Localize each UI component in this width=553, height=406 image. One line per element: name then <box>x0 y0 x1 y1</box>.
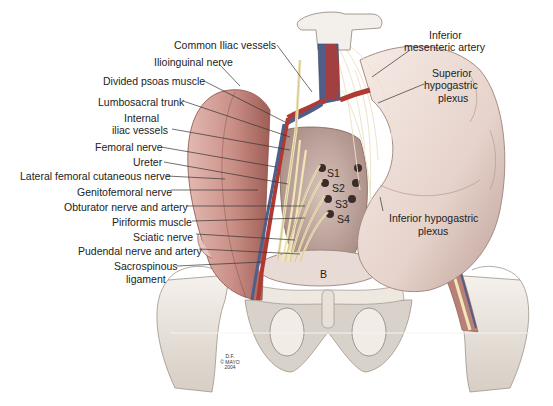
label-lumbosacral-trunk: Lumbosacral trunk <box>98 96 184 108</box>
lumbar-vertebra <box>297 12 382 50</box>
label-common-iliac-vessels: Common Iliac vessels <box>174 39 276 51</box>
leader-common-iliac-vessels <box>277 45 312 92</box>
credit-year: 2004 <box>218 365 242 371</box>
label-inferior: Inferior <box>429 29 462 41</box>
label-ligament: ligament <box>126 273 166 285</box>
marker-s1: S1 <box>327 167 340 179</box>
label-lateral-femoral-cutaneous-nerve: Lateral femoral cutaneous nerve <box>20 170 171 182</box>
label-piriformis-muscle: Piriformis muscle <box>112 216 192 228</box>
label-plexus: plexus <box>418 225 448 237</box>
label-hypogastric: hypogastric <box>424 79 478 91</box>
label-inferior-hypogastric: Inferior hypogastric <box>389 212 478 224</box>
label-sciatic-nerve: Sciatic nerve <box>133 231 193 243</box>
label-femoral-nerve: Femoral nerve <box>95 141 163 153</box>
label-obturator-nerve-and-artery: Obturator nerve and artery <box>64 201 188 213</box>
marker-s4: S4 <box>337 213 350 225</box>
label-mesenteric-artery: mesenteric artery <box>404 41 485 53</box>
label-superior: Superior <box>432 67 472 79</box>
marker-s3: S3 <box>335 198 348 210</box>
anatomical-figure: Common Iliac vesselsIlioinguinal nerveDi… <box>0 0 553 406</box>
label-divided-psoas-muscle: Divided psoas muscle <box>103 75 205 87</box>
label-internal: Internal <box>124 112 159 124</box>
marker-s2: S2 <box>332 182 345 194</box>
label-plexus: plexus <box>438 92 468 104</box>
label-ureter: Ureter <box>133 156 162 168</box>
label-iliac-vessels: iliac vessels <box>112 124 168 136</box>
artist-credit: D.F. © MAYO 2004 <box>218 354 242 371</box>
marker-b: B <box>320 268 327 280</box>
label-sacrospinous: Sacrospinous <box>114 260 178 272</box>
label-ilioinguinal-nerve: Ilioinguinal nerve <box>154 56 233 68</box>
label-pudendal-nerve-and-artery: Pudendal nerve and artery <box>78 245 202 257</box>
label-genitofemoral-nerve: Genitofemoral nerve <box>77 186 172 198</box>
